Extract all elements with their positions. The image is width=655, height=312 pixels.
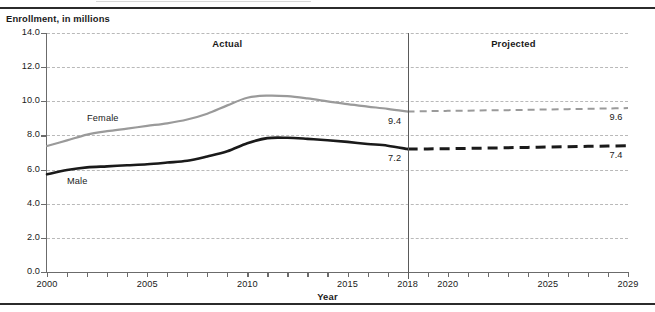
region-label-projected: Projected — [491, 38, 536, 49]
x-tick-label: 2015 — [337, 279, 358, 289]
x-tick — [167, 272, 168, 277]
series-label-female: Female — [87, 113, 119, 123]
value-label-female-2029: 9.6 — [609, 112, 622, 122]
y-tick-label: 4.0 — [6, 198, 40, 208]
x-tick — [327, 272, 328, 277]
chart-figure: Enrollment, in millions Year 0.02.04.06.… — [0, 0, 655, 312]
series-lines — [47, 33, 628, 272]
y-tick-label: 6.0 — [6, 164, 40, 174]
x-tick — [588, 272, 589, 277]
y-tick-label: 14.0 — [6, 27, 40, 37]
x-tick — [247, 272, 248, 277]
x-tick — [187, 272, 188, 277]
x-tick — [207, 272, 208, 277]
x-axis-title: Year — [0, 291, 655, 302]
x-tick — [267, 272, 268, 277]
y-tick-label: 10.0 — [6, 95, 40, 105]
value-label-female-2018: 9.4 — [388, 116, 401, 126]
x-tick — [287, 272, 288, 277]
x-tick — [608, 272, 609, 277]
x-tick — [508, 272, 509, 277]
x-axis-line — [46, 272, 629, 273]
value-label-male-2018: 7.2 — [388, 153, 401, 163]
y-tick-label: 12.0 — [6, 61, 40, 71]
y-tick-label: 0.0 — [6, 266, 40, 276]
x-tick — [488, 272, 489, 277]
value-label-male-2029: 7.4 — [609, 150, 622, 160]
series-label-male: Male — [67, 176, 88, 186]
x-tick — [388, 272, 389, 277]
x-tick — [368, 272, 369, 277]
bottom-divider-rule — [0, 303, 655, 305]
x-tick — [67, 272, 68, 277]
plot-area: Actual Projected Female Male 9.4 7.2 9.6… — [47, 33, 628, 272]
x-tick-label: 2025 — [537, 279, 558, 289]
x-tick-label: 2029 — [618, 279, 639, 289]
x-tick — [87, 272, 88, 277]
y-tick-label: 2.0 — [6, 232, 40, 242]
top-divider-rule — [0, 7, 655, 9]
x-tick — [147, 272, 148, 277]
x-tick-label: 2005 — [137, 279, 158, 289]
series-line-male-projected — [408, 146, 628, 149]
x-tick — [307, 272, 308, 277]
region-label-actual: Actual — [212, 38, 242, 49]
x-tick — [348, 272, 349, 277]
x-tick — [548, 272, 549, 277]
x-tick-label: 2020 — [437, 279, 458, 289]
x-tick — [448, 272, 449, 277]
x-tick-label: 2010 — [237, 279, 258, 289]
x-tick — [47, 272, 48, 277]
y-axis-title: Enrollment, in millions — [6, 13, 110, 24]
x-tick — [468, 272, 469, 277]
x-tick-label: 2000 — [37, 279, 58, 289]
x-tick — [528, 272, 529, 277]
series-line-female-projected — [408, 108, 628, 111]
x-tick — [107, 272, 108, 277]
x-tick — [428, 272, 429, 277]
x-tick — [127, 272, 128, 277]
series-line-male-actual — [47, 138, 408, 175]
y-tick-label: 8.0 — [6, 129, 40, 139]
projection-divider-line — [408, 33, 409, 279]
ghost-rule-artifact — [96, 1, 311, 2]
x-tick — [568, 272, 569, 277]
x-tick — [628, 272, 629, 277]
x-tick-label: 2018 — [397, 279, 418, 289]
x-tick — [227, 272, 228, 277]
